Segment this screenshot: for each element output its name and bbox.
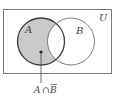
set-a-label: A	[24, 24, 32, 35]
pointer-label-right: B	[49, 85, 57, 95]
pointer-label-left: A	[33, 85, 41, 95]
pointer-label: A ∩ B	[33, 85, 57, 96]
venn-diagram: A B U A ∩ B	[0, 0, 120, 105]
pointer-label-op: ∩	[42, 85, 50, 95]
universe-label: U	[99, 12, 108, 23]
set-b-label: B	[75, 25, 83, 36]
